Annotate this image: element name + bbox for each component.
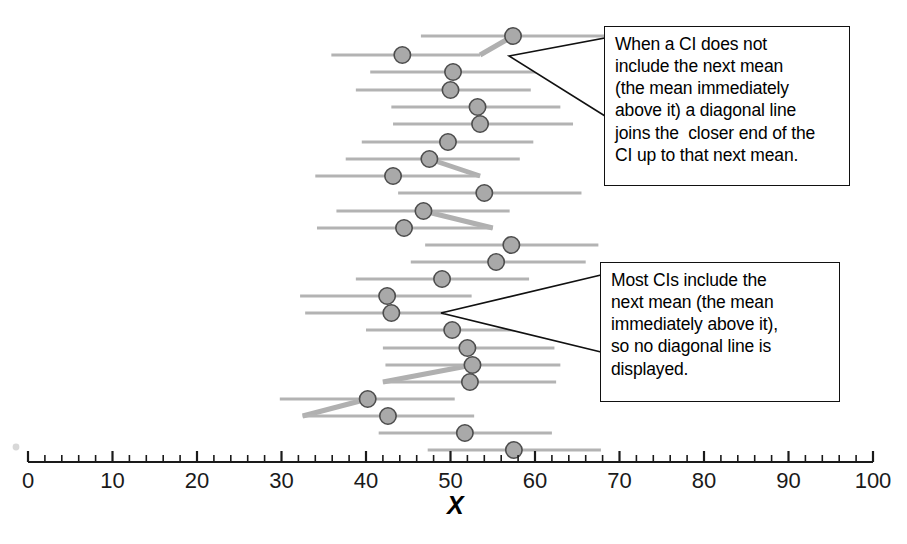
callout-2-line-1: Most CIs include the — [611, 269, 831, 291]
callout-diagonal-explanation: When a CI does not include the next mean… — [604, 26, 850, 186]
mean-marker — [503, 237, 519, 253]
ci-diagonal-connector — [423, 211, 492, 228]
ci-diagonal-connector — [383, 365, 473, 382]
mean-marker — [379, 288, 395, 304]
ci-interval-row — [428, 442, 601, 458]
x-tick-label: 40 — [354, 468, 378, 493]
ci-interval-row — [336, 203, 509, 219]
mean-marker — [434, 271, 450, 287]
ci-interval-row — [391, 99, 560, 115]
ci-interval-row — [280, 391, 455, 407]
callout-1-line-3: (the mean immediately — [615, 77, 841, 99]
x-tick-label: 0 — [22, 468, 34, 493]
mean-marker — [506, 442, 522, 458]
ci-interval-row — [346, 151, 520, 167]
x-tick-label: 50 — [438, 468, 462, 493]
mean-marker — [488, 254, 504, 270]
callout-2-line-2: next mean (the mean — [611, 291, 831, 313]
ci-interval-row — [411, 254, 586, 270]
mean-marker — [505, 28, 521, 44]
mean-marker — [476, 185, 492, 201]
mean-marker — [385, 168, 401, 184]
ci-interval-row — [398, 185, 581, 201]
mean-marker — [394, 47, 410, 63]
mean-marker — [444, 322, 460, 338]
mean-marker — [469, 99, 485, 115]
mean-marker — [415, 203, 431, 219]
callout-2-line-5: displayed. — [611, 358, 831, 380]
ci-interval-row — [383, 340, 555, 356]
ci-interval-row — [379, 425, 552, 441]
ci-interval-row — [370, 64, 539, 80]
callout-1-line-1: When a CI does not — [615, 33, 841, 55]
x-tick-label: 80 — [692, 468, 716, 493]
x-tick-label: 30 — [269, 468, 293, 493]
mean-marker — [380, 408, 396, 424]
x-tick-label: 60 — [523, 468, 547, 493]
mean-marker — [462, 374, 478, 390]
mean-marker — [457, 425, 473, 441]
ci-interval-row — [300, 288, 472, 304]
callout-leader-lines — [441, 38, 605, 352]
ci-interval-row — [356, 82, 531, 98]
callout-no-diagonal-explanation: Most CIs include the next mean (the mean… — [600, 262, 840, 402]
ci-interval-row — [356, 271, 529, 287]
callout-2-line-4: so no diagonal line is — [611, 335, 831, 357]
callout-1-line-5: joins the closer end of the — [615, 122, 841, 144]
x-tick-label: 70 — [607, 468, 631, 493]
mean-marker — [440, 134, 456, 150]
x-tick-label: 20 — [185, 468, 209, 493]
mean-marker — [445, 64, 461, 80]
scan-artifact-speck — [13, 444, 20, 451]
mean-marker — [459, 340, 475, 356]
ci-interval-row — [385, 357, 560, 373]
x-axis-label: X — [447, 491, 464, 520]
x-tick-label: 10 — [100, 468, 124, 493]
callout-1-line-2: include the next mean — [615, 55, 841, 77]
ci-interval-row — [362, 134, 534, 150]
callout-1-line-6: CI up to that next mean. — [615, 144, 841, 166]
ci-interval-row — [425, 237, 598, 253]
mean-marker — [359, 391, 375, 407]
callout-2-line-3: immediately above it), — [611, 313, 831, 335]
mean-marker — [396, 220, 412, 236]
mean-marker — [383, 305, 399, 321]
ci-interval-row — [331, 47, 480, 63]
x-tick-label: 90 — [776, 468, 800, 493]
callout-1-line-4: above it) a diagonal line — [615, 99, 841, 121]
mean-marker — [442, 82, 458, 98]
callout-1-leader — [509, 38, 605, 116]
ci-rows-group — [280, 28, 611, 458]
figure-canvas: 0102030405060708090100 When a CI does no… — [0, 0, 907, 544]
mean-marker — [464, 357, 480, 373]
ci-interval-row — [393, 116, 573, 132]
mean-marker — [472, 116, 488, 132]
ci-diagonal-connector — [303, 399, 368, 416]
mean-marker — [421, 151, 437, 167]
x-tick-label: 100 — [855, 468, 892, 493]
